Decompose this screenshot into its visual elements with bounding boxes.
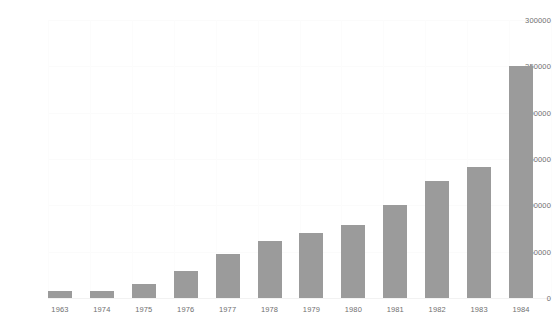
x-axis-tick-label: 1963 xyxy=(51,305,68,314)
bar-rect[interactable] xyxy=(299,233,323,298)
bars-layer xyxy=(48,18,551,300)
vertical-gridline xyxy=(551,20,552,298)
bar-1982[interactable] xyxy=(425,181,449,298)
bar-1980[interactable] xyxy=(341,225,365,298)
bar-chart: 050000100000150000200000250000300000 196… xyxy=(0,0,557,331)
x-axis-tick-label: 1978 xyxy=(261,305,278,314)
x-axis-tick-labels: 1963197419751976197719781979198019811982… xyxy=(0,305,557,321)
bar-rect[interactable] xyxy=(216,254,240,298)
bar-1976[interactable] xyxy=(174,271,198,298)
x-axis-tick-label: 1974 xyxy=(93,305,110,314)
bar-1981[interactable] xyxy=(383,205,407,298)
x-axis-tick-label: 1976 xyxy=(177,305,194,314)
bar-rect[interactable] xyxy=(48,291,72,298)
bar-rect[interactable] xyxy=(467,167,491,298)
bar-1974[interactable] xyxy=(90,291,114,298)
x-axis-tick-label: 1984 xyxy=(512,305,529,314)
x-axis-tick-label: 1981 xyxy=(387,305,404,314)
bar-1963[interactable] xyxy=(48,291,72,298)
bar-rect[interactable] xyxy=(258,241,282,298)
bar-rect[interactable] xyxy=(341,225,365,298)
x-axis-tick-label: 1983 xyxy=(470,305,487,314)
x-axis-tick-label: 1982 xyxy=(429,305,446,314)
bar-rect[interactable] xyxy=(174,271,198,298)
x-axis-tick-label: 1980 xyxy=(345,305,362,314)
bar-1978[interactable] xyxy=(258,241,282,298)
plot-area xyxy=(48,18,551,300)
bar-rect[interactable] xyxy=(132,284,156,298)
x-axis-tick-label: 1977 xyxy=(219,305,236,314)
bar-rect[interactable] xyxy=(425,181,449,298)
bar-1979[interactable] xyxy=(299,233,323,298)
x-axis-tick-label: 1975 xyxy=(135,305,152,314)
bar-rect[interactable] xyxy=(383,205,407,298)
bar-1984[interactable] xyxy=(509,66,533,298)
y-axis xyxy=(0,0,48,331)
bar-1983[interactable] xyxy=(467,167,491,298)
bar-rect[interactable] xyxy=(90,291,114,298)
bar-rect[interactable] xyxy=(509,66,533,298)
bar-1975[interactable] xyxy=(132,284,156,298)
bar-1977[interactable] xyxy=(216,254,240,298)
x-axis-tick-label: 1979 xyxy=(303,305,320,314)
